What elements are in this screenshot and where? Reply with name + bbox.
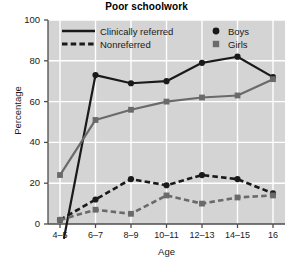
x-axis-tick-label: 8–9 xyxy=(123,230,138,240)
data-point-circle xyxy=(199,172,205,178)
data-point-square xyxy=(199,95,205,101)
x-axis-tick-label: 4–5 xyxy=(52,230,67,240)
data-point-circle xyxy=(128,80,134,86)
data-point-square xyxy=(199,201,205,207)
legend-label-nonreferred: Nonreferred xyxy=(100,39,151,50)
data-point-circle xyxy=(92,72,98,78)
legend-marker-girls-square xyxy=(213,41,219,47)
chart-container: Poor schoolwork Percentage 020406080100 … xyxy=(0,0,293,267)
data-point-square xyxy=(128,211,134,217)
data-point-square xyxy=(57,217,63,223)
x-axis-tick-label: 12–13 xyxy=(189,230,214,240)
legend-label-boys: Boys xyxy=(228,26,249,37)
data-point-circle xyxy=(163,78,169,84)
legend-label-clinically-referred: Clinically referred xyxy=(100,26,173,37)
data-point-circle xyxy=(128,176,134,182)
x-axis-tick-label: 10–11 xyxy=(154,230,178,240)
legend-label-girls: Girls xyxy=(228,39,248,50)
data-point-square xyxy=(57,172,63,178)
data-point-circle xyxy=(92,196,98,202)
data-point-square xyxy=(270,193,276,199)
data-point-circle xyxy=(163,182,169,188)
data-point-square xyxy=(270,76,276,82)
data-point-circle xyxy=(199,60,205,66)
data-point-square xyxy=(93,117,99,123)
data-point-square xyxy=(128,107,134,113)
data-point-circle xyxy=(234,176,240,182)
data-point-square xyxy=(235,195,241,201)
x-axis-tick-label: 16 xyxy=(268,230,278,240)
legend-marker-boys-circle xyxy=(213,28,220,35)
data-point-square xyxy=(93,207,99,213)
data-point-square xyxy=(164,193,170,199)
data-point-circle xyxy=(234,54,240,60)
x-axis-tick-label: 14–15 xyxy=(225,230,250,240)
plot-area: Clinically referredNonreferredBoysGirls xyxy=(0,0,293,267)
data-point-square xyxy=(164,99,170,105)
x-axis-tick-label: 6–7 xyxy=(88,230,103,240)
data-point-square xyxy=(235,93,241,99)
